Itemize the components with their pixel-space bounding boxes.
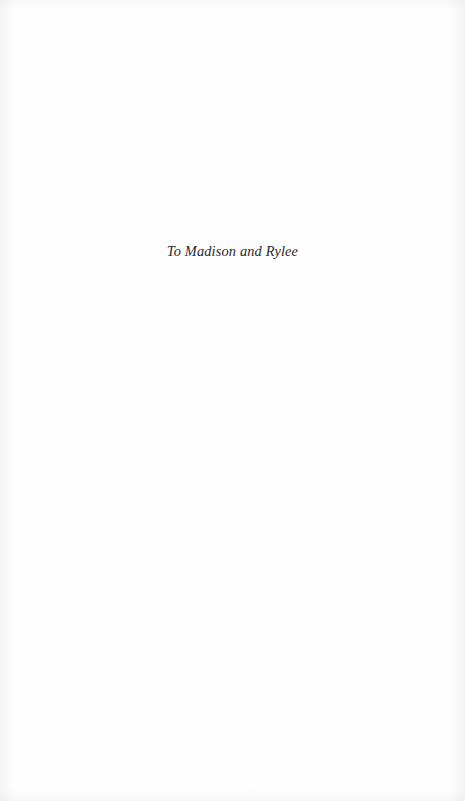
page-edge-shading-right: [449, 0, 465, 801]
page-edge-shading-left: [0, 0, 14, 801]
dedication-block: To Madison and Rylee: [0, 241, 465, 262]
scanned-page: To Madison and Rylee: [0, 0, 465, 801]
page-edge-shading-top: [0, 0, 465, 10]
dedication-text: To Madison and Rylee: [167, 241, 298, 262]
page-edge-shading-bottom: [0, 789, 465, 801]
